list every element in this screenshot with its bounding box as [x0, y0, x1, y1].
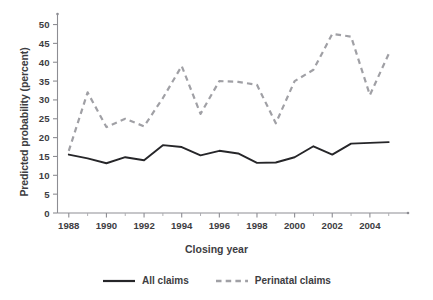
y-tick-label: 15 — [39, 151, 50, 162]
y-tick-label: 0 — [44, 208, 49, 219]
x-tick-label: 1996 — [209, 220, 230, 231]
y-tick-label: 5 — [44, 189, 50, 200]
x-tick-label: 2004 — [359, 220, 381, 231]
y-tick-label: 50 — [39, 19, 50, 30]
x-tick-label: 1992 — [133, 220, 154, 231]
x-tick-label: 2002 — [322, 220, 343, 231]
line-chart-svg: 0510152025303540455019881990199219941996… — [0, 0, 433, 300]
chart-figure: 0510152025303540455019881990199219941996… — [0, 0, 433, 300]
legend-label-perinatal-claims: Perinatal claims — [255, 275, 331, 286]
series-line-all-claims — [69, 142, 389, 163]
y-tick-label: 35 — [39, 76, 50, 87]
y-axis-title: Predicted probability (percent) — [18, 12, 30, 232]
x-tick-label: 1994 — [171, 220, 193, 231]
legend-item-perinatal-claims: Perinatal claims — [215, 275, 331, 286]
legend-item-all-claims: All claims — [102, 275, 189, 286]
y-tick-label: 10 — [39, 170, 50, 181]
legend-label-all-claims: All claims — [142, 275, 189, 286]
y-tick-label: 45 — [39, 38, 50, 49]
x-tick-label: 1990 — [96, 220, 117, 231]
y-tick-label: 25 — [39, 113, 50, 124]
y-tick-label: 30 — [39, 94, 50, 105]
x-tick-label: 1988 — [58, 220, 80, 231]
x-axis-title: Closing year — [0, 243, 433, 255]
y-tick-label: 20 — [39, 132, 50, 143]
x-tick-label: 1998 — [246, 220, 268, 231]
x-tick-label: 2000 — [284, 220, 305, 231]
legend-swatch-dashed-icon — [215, 276, 249, 286]
y-tick-label: 40 — [39, 57, 50, 68]
legend-swatch-solid-icon — [102, 276, 136, 286]
series-line-perinatal-claims — [69, 34, 389, 151]
chart-legend: All claims Perinatal claims — [0, 275, 433, 286]
plot-area: 0510152025303540455019881990199219941996… — [0, 0, 433, 300]
